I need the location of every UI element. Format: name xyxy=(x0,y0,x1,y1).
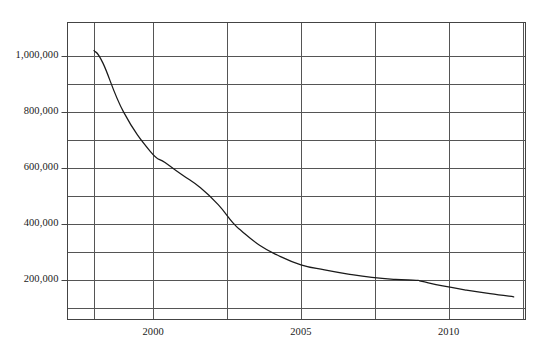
chart-canvas xyxy=(0,0,543,358)
y-axis-ticks xyxy=(62,57,68,281)
y-axis-tick-label: 200,000 xyxy=(24,273,59,284)
x-axis-tick-label: 2005 xyxy=(261,326,341,337)
x-axis-tick-label: 2000 xyxy=(113,326,193,337)
y-axis-tick-label: 1,000,000 xyxy=(16,49,59,60)
gridlines-vertical xyxy=(95,23,524,320)
y-axis-tick-label: 600,000 xyxy=(24,161,59,172)
gridlines-horizontal xyxy=(68,57,526,309)
plot-border xyxy=(68,23,526,320)
data-series-line xyxy=(94,51,514,297)
x-axis-tick-label: 2010 xyxy=(409,326,489,337)
plot-frame xyxy=(68,23,526,320)
y-axis-tick-label: 800,000 xyxy=(24,105,59,116)
data-line xyxy=(94,51,514,297)
line-chart: 200,000400,000600,000800,0001,000,000 20… xyxy=(0,0,543,358)
y-axis-tick-label: 400,000 xyxy=(24,217,59,228)
